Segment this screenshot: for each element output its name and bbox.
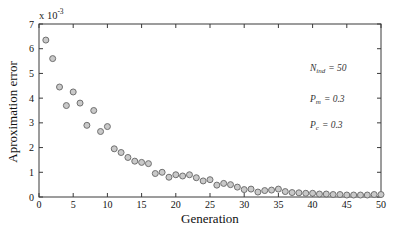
annotation-subscript: ind — [316, 67, 325, 75]
y-axis-exponent-label: x 10-3 — [39, 7, 64, 21]
data-point — [228, 182, 234, 188]
y-axis-label: Aproximation error — [5, 42, 21, 182]
data-point — [57, 84, 63, 90]
data-point — [145, 161, 151, 167]
x-tick-label: 15 — [137, 199, 147, 210]
x-tick-label: 50 — [376, 199, 386, 210]
data-point — [282, 189, 288, 195]
exponent-prefix: x 10 — [39, 10, 57, 21]
data-point — [180, 173, 186, 179]
data-point — [310, 190, 316, 196]
data-point — [351, 192, 357, 198]
data-point — [193, 175, 199, 181]
x-tick-label: 45 — [342, 199, 352, 210]
data-point — [316, 191, 322, 197]
x-tick-label: 35 — [273, 199, 283, 210]
data-point — [323, 191, 329, 197]
data-point — [221, 180, 227, 186]
data-point — [378, 192, 384, 198]
data-point — [275, 186, 281, 192]
figure: 0510152025303540455001234567 x 10-3 Apro… — [0, 0, 403, 233]
data-point — [241, 187, 247, 193]
annotation-value: = 0.3 — [324, 94, 345, 104]
x-tick-label: 5 — [71, 199, 76, 210]
annotation-p-c: Pc= 0.3 — [310, 120, 343, 132]
data-point — [255, 189, 261, 195]
data-point — [337, 192, 343, 198]
data-point — [269, 187, 275, 193]
data-point — [303, 190, 309, 196]
annotation-subscript: m — [316, 98, 321, 106]
data-point — [159, 169, 165, 175]
data-point — [125, 154, 131, 160]
data-point — [50, 56, 56, 62]
data-point — [364, 192, 370, 198]
x-axis-label: Generation — [39, 211, 381, 227]
y-tick-label: 1 — [29, 167, 34, 178]
annotation-n-ind: Nind= 50 — [310, 63, 347, 75]
data-point — [104, 124, 110, 130]
data-point — [91, 108, 97, 114]
data-point — [152, 171, 158, 177]
y-tick-label: 5 — [29, 68, 34, 79]
data-point — [111, 146, 117, 152]
y-tick-label: 3 — [29, 117, 34, 128]
annotation-value: = 50 — [328, 63, 346, 73]
data-point — [139, 159, 145, 165]
data-point — [344, 192, 350, 198]
x-tick-label: 0 — [37, 199, 42, 210]
x-tick-label: 25 — [205, 199, 215, 210]
data-point — [248, 186, 254, 192]
data-point — [214, 182, 220, 188]
data-point — [296, 190, 302, 196]
data-point — [357, 192, 363, 198]
y-tick-label: 2 — [29, 142, 34, 153]
data-point — [84, 122, 90, 128]
data-point — [132, 158, 138, 164]
data-point — [166, 174, 172, 180]
data-point — [77, 100, 83, 106]
data-point — [234, 184, 240, 190]
scatter-plot: 0510152025303540455001234567 — [0, 0, 403, 233]
x-tick-label: 10 — [102, 199, 112, 210]
x-tick-label: 30 — [239, 199, 249, 210]
data-point — [63, 103, 69, 109]
x-tick-label: 20 — [171, 199, 181, 210]
data-point — [43, 37, 49, 43]
annotation-p-m: Pm= 0.3 — [310, 94, 345, 106]
annotation-value: = 0.3 — [322, 120, 343, 130]
data-point — [70, 89, 76, 95]
y-tick-label: 6 — [29, 43, 34, 54]
y-tick-label: 7 — [29, 19, 34, 30]
data-point — [118, 150, 124, 156]
data-point — [173, 172, 179, 178]
x-tick-label: 40 — [308, 199, 318, 210]
data-point — [186, 172, 192, 178]
data-point — [200, 178, 206, 184]
data-point — [262, 188, 268, 194]
data-point — [207, 177, 213, 183]
exponent-value: -3 — [57, 7, 63, 16]
data-point — [289, 190, 295, 196]
y-tick-label: 4 — [29, 93, 34, 104]
annotation-subscript: c — [316, 124, 319, 132]
data-point — [330, 192, 336, 198]
data-point — [371, 192, 377, 198]
y-tick-label: 0 — [29, 192, 34, 203]
data-point — [98, 129, 104, 135]
